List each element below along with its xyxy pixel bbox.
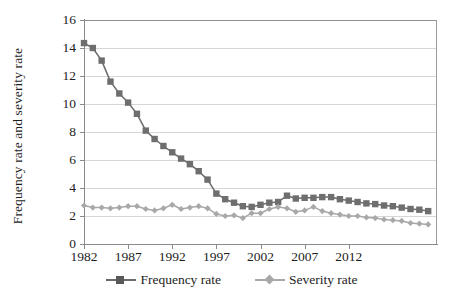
data-point-marker	[310, 195, 316, 201]
legend-item-frequency-rate[interactable]: Frequency rate	[106, 272, 221, 288]
data-point-marker	[399, 204, 405, 210]
data-point-marker	[178, 206, 184, 212]
data-point-marker	[328, 194, 334, 200]
data-point-marker	[319, 208, 325, 214]
data-point-marker	[231, 212, 237, 218]
data-point-marker	[98, 57, 104, 63]
data-point-marker	[372, 201, 378, 207]
data-point-marker	[354, 199, 360, 205]
data-point-marker	[90, 205, 96, 211]
data-point-marker	[187, 161, 193, 167]
data-point-marker	[284, 193, 290, 199]
data-point-marker	[90, 45, 96, 51]
data-point-marker	[257, 202, 263, 208]
data-point-marker	[425, 208, 431, 214]
data-point-marker	[240, 203, 246, 209]
data-point-marker	[81, 40, 87, 46]
data-point-marker	[151, 136, 157, 142]
series-layer	[0, 0, 464, 300]
legend-label-frequency-rate: Frequency rate	[140, 272, 221, 288]
data-point-marker	[266, 206, 272, 212]
data-point-marker	[213, 190, 219, 196]
data-point-marker	[354, 213, 360, 219]
data-point-marker	[407, 220, 413, 226]
series-frequency-rate	[81, 40, 432, 214]
legend-marker-diamond-icon	[255, 274, 285, 286]
data-point-marker	[293, 209, 299, 215]
data-point-marker	[407, 206, 413, 212]
data-point-marker	[143, 127, 149, 133]
data-point-marker	[178, 155, 184, 161]
line-chart: Frequency rate and severity rate 0246810…	[0, 0, 464, 300]
data-point-marker	[99, 205, 105, 211]
data-point-marker	[257, 210, 263, 216]
data-point-marker	[134, 111, 140, 117]
data-point-marker	[222, 196, 228, 202]
data-point-marker	[196, 203, 202, 209]
data-point-marker	[240, 215, 246, 221]
data-point-marker	[337, 212, 343, 218]
legend-item-severity-rate[interactable]: Severity rate	[255, 272, 358, 288]
data-point-marker	[363, 200, 369, 206]
data-point-marker	[425, 221, 431, 227]
data-point-marker	[125, 203, 131, 209]
data-point-marker	[116, 205, 122, 211]
data-point-marker	[381, 216, 387, 222]
data-point-marker	[81, 202, 87, 208]
legend-marker-square-icon	[106, 274, 136, 286]
data-point-marker	[301, 195, 307, 201]
data-point-marker	[390, 203, 396, 209]
data-point-marker	[266, 200, 272, 206]
data-point-marker	[346, 197, 352, 203]
chart-legend: Frequency rate Severity rate	[0, 272, 464, 288]
data-point-marker	[249, 210, 255, 216]
data-point-marker	[319, 194, 325, 200]
data-point-marker	[222, 213, 228, 219]
data-point-marker	[204, 176, 210, 182]
data-point-marker	[160, 143, 166, 149]
data-point-marker	[293, 195, 299, 201]
data-point-marker	[187, 205, 193, 211]
data-point-marker	[107, 205, 113, 211]
data-point-marker	[381, 202, 387, 208]
data-point-marker	[134, 203, 140, 209]
data-point-marker	[125, 99, 131, 105]
data-point-marker	[143, 206, 149, 212]
data-point-marker	[107, 78, 113, 84]
data-point-marker	[284, 205, 290, 211]
data-point-marker	[390, 217, 396, 223]
data-point-marker	[337, 196, 343, 202]
data-point-marker	[328, 210, 334, 216]
data-point-marker	[116, 90, 122, 96]
data-point-marker	[231, 200, 237, 206]
data-point-marker	[160, 205, 166, 211]
data-point-marker	[302, 207, 308, 213]
data-point-marker	[169, 202, 175, 208]
data-point-marker	[346, 213, 352, 219]
data-point-marker	[169, 149, 175, 155]
legend-label-severity-rate: Severity rate	[289, 272, 358, 288]
data-point-marker	[372, 215, 378, 221]
data-point-marker	[399, 218, 405, 224]
data-point-marker	[416, 221, 422, 227]
data-point-marker	[363, 214, 369, 220]
data-point-marker	[248, 204, 254, 210]
series-line	[84, 43, 428, 211]
data-point-marker	[152, 207, 158, 213]
data-point-marker	[196, 168, 202, 174]
data-point-marker	[310, 204, 316, 210]
data-point-marker	[416, 207, 422, 213]
